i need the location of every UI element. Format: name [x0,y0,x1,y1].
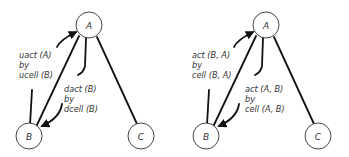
up-annotation-line1: uact (A) [19,50,52,60]
up-annotation-line2: by [192,60,202,70]
down-annotation: dact (B) by dcell (B) [64,84,98,114]
up-annotation: act (B, A) by cell (B, A) [192,50,232,80]
node-c-label: C [315,132,322,142]
node-a-label: A [85,21,92,31]
up-annotation-line3: cell (B, A) [192,70,232,80]
up-annotation-line1: act (B, A) [192,50,230,60]
left-diagram: A B C uact (A) by ucell (B) dact (B) by … [16,12,154,149]
node-c: C [128,123,154,149]
up-annotation: uact (A) by ucell (B) [19,50,53,80]
node-b: B [193,123,219,149]
down-annotation-line2: by [245,94,255,104]
down-annotation-line1: act (A, B) [245,84,283,94]
node-a: A [253,12,279,38]
edge-a-c [97,37,137,124]
node-b-label: B [26,132,32,142]
down-annotation: act (A, B) by cell (A, B) [245,84,285,114]
diagram-canvas: A B C uact (A) by ucell (B) dact (B) by … [0,0,349,157]
up-annotation-line2: by [19,60,29,70]
down-annotation-line3: cell (A, B) [245,104,285,114]
node-c-label: C [138,132,145,142]
node-b: B [16,123,42,149]
node-a: A [76,12,102,38]
down-annotation-line1: dact (B) [64,84,97,94]
right-diagram: A B C act (B, A) by cell (B, A) act (A, … [192,12,331,149]
node-b-label: B [203,132,209,142]
down-annotation-line3: dcell (B) [64,104,98,114]
down-annotation-line2: by [64,94,74,104]
node-a-label: A [262,21,269,31]
up-annotation-line3: ucell (B) [19,70,53,80]
node-c: C [305,123,331,149]
